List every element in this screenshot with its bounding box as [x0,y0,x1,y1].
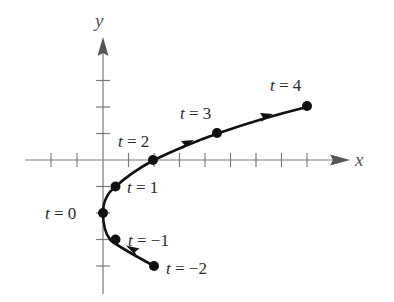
label-t-neg2: t = −2 [166,259,207,278]
point-t-1 [111,182,121,192]
label-t-value: = 4 [275,76,302,95]
y-axis: y [93,10,110,294]
label-t-value: = −2 [171,259,207,278]
label-t-value: = −1 [133,231,169,250]
label-t-value: = 1 [132,178,159,197]
y-axis-label: y [93,10,104,31]
label-t-0: t = 0 [45,204,76,223]
x-axis: x [25,149,364,170]
direction-arrow-icon [181,140,194,150]
point-t-neg1 [111,235,121,245]
parametric-curve-diagram: x y t = −2 t = −1 [0,0,394,302]
point-t-3 [212,128,222,138]
label-t-3: t = 3 [180,104,211,123]
point-t-4 [302,101,312,111]
point-t-2 [148,155,158,165]
label-t-2: t = 2 [118,132,149,151]
point-t-0 [98,208,108,218]
label-t-1: t = 1 [127,178,158,197]
point-t-neg2 [149,261,159,271]
x-axis-label: x [354,149,364,170]
label-t-neg1: t = −1 [128,231,169,250]
label-t-4: t = 4 [270,76,302,95]
label-t-value: = 3 [185,104,212,123]
label-t-value: = 0 [50,204,77,223]
label-t-value: = 2 [123,132,150,151]
x-axis-arrow-icon [330,155,350,166]
